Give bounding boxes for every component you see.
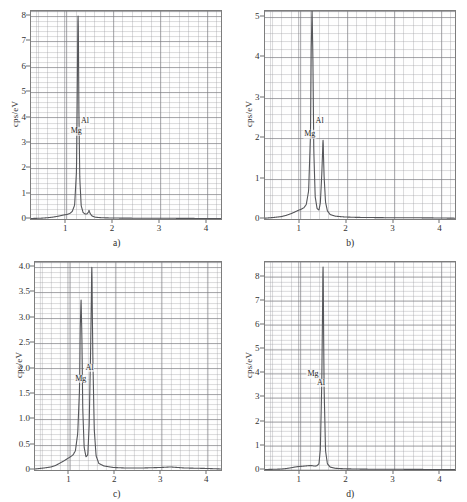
plot-area: MgAl bbox=[264, 261, 456, 471]
y-tick-mark bbox=[260, 177, 264, 178]
x-tick-mark bbox=[298, 470, 299, 474]
y-tick-mark bbox=[260, 299, 264, 300]
eds-spectra-figure: cps/eVMgAl0123456781234a)cps/eVMgAl01234… bbox=[0, 0, 467, 502]
y-tick-label: 2.5 bbox=[19, 337, 30, 347]
x-tick-label: 1 bbox=[66, 474, 71, 484]
x-tick-mark bbox=[65, 219, 66, 223]
y-tick-mark bbox=[30, 418, 34, 419]
y-tick-mark bbox=[30, 443, 34, 444]
x-tick-mark bbox=[298, 219, 299, 223]
x-tick-label: 2 bbox=[112, 474, 117, 484]
x-tick-label: 4 bbox=[204, 223, 209, 233]
peak-label-al: Al bbox=[316, 379, 326, 387]
y-tick-mark bbox=[26, 167, 30, 168]
plot-area: MgAl bbox=[34, 261, 222, 471]
x-tick-label: 3 bbox=[390, 223, 395, 233]
x-tick-mark bbox=[206, 470, 207, 474]
panel-caption-d: d) bbox=[234, 489, 467, 499]
chart-panel-d: cps/eVMgAl0123456781234d) bbox=[234, 251, 467, 502]
peak-label-al: Al bbox=[84, 363, 94, 371]
y-tick-mark bbox=[30, 291, 34, 292]
y-axis-label: cps/eV bbox=[244, 101, 254, 127]
y-tick-mark bbox=[260, 396, 264, 397]
y-tick-mark bbox=[26, 218, 30, 219]
chart-panel-a: cps/eVMgAl0123456781234a) bbox=[0, 0, 234, 251]
panel-caption-c: c) bbox=[0, 489, 234, 499]
x-tick-label: 3 bbox=[390, 474, 395, 484]
y-tick-label: 4.0 bbox=[19, 261, 30, 271]
y-tick-mark bbox=[260, 444, 264, 445]
y-tick-mark bbox=[26, 40, 30, 41]
x-tick-mark bbox=[439, 470, 440, 474]
y-tick-mark bbox=[260, 323, 264, 324]
x-tick-label: 2 bbox=[110, 223, 115, 233]
y-tick-mark bbox=[260, 96, 264, 97]
x-tick-label: 3 bbox=[157, 223, 162, 233]
y-tick-label: 1.0 bbox=[19, 413, 30, 423]
peak-label-al: Al bbox=[315, 117, 325, 125]
y-tick-mark bbox=[260, 372, 264, 373]
x-tick-mark bbox=[345, 219, 346, 223]
y-tick-mark bbox=[26, 15, 30, 16]
x-tick-label: 4 bbox=[204, 474, 209, 484]
x-tick-mark bbox=[345, 470, 346, 474]
x-tick-label: 2 bbox=[343, 223, 348, 233]
y-tick-mark bbox=[260, 56, 264, 57]
x-tick-mark bbox=[112, 219, 113, 223]
x-tick-mark bbox=[160, 470, 161, 474]
x-tick-label: 4 bbox=[437, 474, 442, 484]
y-tick-label: 1.5 bbox=[19, 388, 30, 398]
spectrum-trace bbox=[265, 11, 455, 219]
x-tick-label: 3 bbox=[158, 474, 163, 484]
chart-panel-c: cps/eVMgAl00.51.01.52.02.53.03.54.01234c… bbox=[0, 251, 234, 502]
y-tick-mark bbox=[26, 141, 30, 142]
y-tick-mark bbox=[26, 116, 30, 117]
y-tick-mark bbox=[260, 16, 264, 17]
plot-area: MgAl bbox=[264, 10, 456, 220]
y-tick-mark bbox=[260, 218, 264, 219]
spectrum-trace bbox=[265, 262, 455, 470]
spectrum-trace bbox=[35, 262, 221, 470]
x-tick-mark bbox=[68, 470, 69, 474]
x-tick-label: 2 bbox=[343, 474, 348, 484]
x-tick-mark bbox=[392, 470, 393, 474]
y-tick-mark bbox=[30, 469, 34, 470]
y-tick-mark bbox=[30, 367, 34, 368]
x-tick-label: 1 bbox=[296, 474, 301, 484]
y-tick-label: 3.5 bbox=[19, 286, 30, 296]
y-tick-mark bbox=[30, 342, 34, 343]
y-tick-mark bbox=[30, 316, 34, 317]
y-tick-mark bbox=[26, 65, 30, 66]
y-tick-label: 2.0 bbox=[19, 363, 30, 373]
spectrum-trace bbox=[31, 11, 221, 219]
panel-caption-b: b) bbox=[234, 238, 467, 248]
y-tick-mark bbox=[260, 469, 264, 470]
panel-caption-a: a) bbox=[0, 238, 234, 248]
x-tick-mark bbox=[439, 219, 440, 223]
plot-area: MgAl bbox=[30, 10, 222, 220]
y-tick-mark bbox=[30, 392, 34, 393]
y-tick-mark bbox=[26, 91, 30, 92]
x-tick-mark bbox=[205, 219, 206, 223]
y-tick-mark bbox=[260, 137, 264, 138]
y-tick-mark bbox=[26, 192, 30, 193]
y-tick-mark bbox=[260, 420, 264, 421]
x-tick-label: 1 bbox=[63, 223, 68, 233]
y-tick-mark bbox=[260, 275, 264, 276]
y-axis-label: cps/eV bbox=[10, 101, 20, 127]
x-tick-mark bbox=[114, 470, 115, 474]
y-tick-mark bbox=[30, 266, 34, 267]
y-axis-label: cps/eV bbox=[244, 352, 254, 378]
y-tick-mark bbox=[260, 348, 264, 349]
peak-label-mg: Mg bbox=[74, 374, 87, 382]
x-tick-mark bbox=[159, 219, 160, 223]
chart-panel-b: cps/eVMgAl0123451234b) bbox=[234, 0, 467, 251]
x-tick-mark bbox=[392, 219, 393, 223]
peak-label-al: Al bbox=[80, 117, 90, 125]
peak-label-mg: Mg bbox=[70, 127, 83, 135]
y-tick-label: 3.0 bbox=[19, 312, 30, 322]
y-tick-label: 0.5 bbox=[19, 439, 30, 449]
x-tick-label: 1 bbox=[296, 223, 301, 233]
x-tick-label: 4 bbox=[437, 223, 442, 233]
peak-label-mg: Mg bbox=[303, 130, 316, 138]
